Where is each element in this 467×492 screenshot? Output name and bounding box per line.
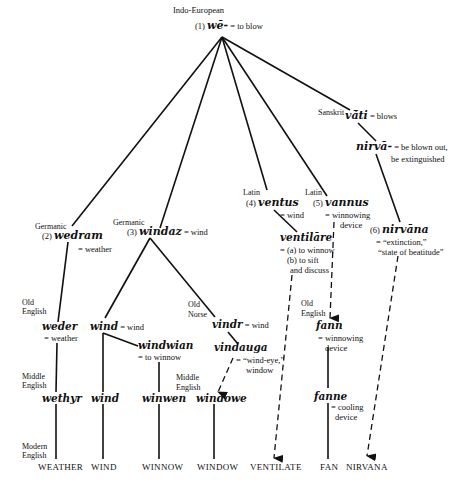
line-root-ventus — [222, 37, 267, 190]
gloss-ventus: = wind — [280, 210, 304, 220]
line-root-wedram — [72, 37, 222, 226]
word-ventilare: ventilāre — [280, 232, 332, 242]
period-old-norse-1: Old — [188, 300, 200, 310]
gloss-wedram: = weather — [78, 244, 112, 254]
gloss-fann-1: = winnowing — [318, 333, 363, 343]
line-wedram-weder — [58, 242, 68, 322]
word-fann: fann — [316, 320, 343, 330]
line-weder-wethyr — [56, 343, 57, 392]
root-word: wē- — [207, 19, 228, 32]
root-gloss: = to blow — [230, 21, 263, 31]
line-root-windaz — [160, 37, 222, 228]
modern-fan: FAN — [320, 462, 338, 472]
modern-nirvana: NIRVANA — [346, 462, 388, 472]
node-vindr: vindr = wind — [212, 319, 269, 330]
word-windaz: windaz — [139, 225, 182, 238]
num-nirvana: (6) — [370, 225, 380, 235]
period-old-english-2: English — [22, 307, 46, 317]
word-vati: vā́ti — [345, 109, 368, 122]
gloss-ventilare-1: = (a) to winnow — [280, 245, 335, 255]
word-windwian: windwian — [138, 340, 193, 350]
period-middle-english-2: English — [22, 381, 46, 391]
gloss-fann-2: device — [325, 343, 347, 353]
root-num: (1) — [195, 21, 205, 31]
gloss-ventilare-2: (b) to sift — [287, 255, 319, 265]
period-middle-english-b-1: Middle — [176, 373, 199, 383]
period-old-english-b-1: Old — [301, 299, 313, 309]
gloss-nirvana-2: “state of beatitude” — [378, 247, 444, 257]
word-vindr: vindr — [212, 318, 243, 330]
line-root-vannus — [222, 37, 327, 196]
modern-window: WINDOW — [197, 462, 238, 472]
node-wedram: (2) wedram — [42, 231, 103, 241]
period-modern-english-2: English — [22, 451, 46, 461]
gloss-fanne-2: device — [335, 412, 357, 422]
node-nirva: nirvā- = be blown out, — [356, 142, 448, 152]
modern-winnow: WINNOW — [142, 462, 183, 472]
period-old-norse-2: Norse — [188, 310, 207, 320]
gloss-nirvana-1: = “extinction,” — [376, 237, 427, 247]
gloss-vannus-1: = winnowing — [325, 210, 370, 220]
period-old-english-b-2: English — [301, 309, 325, 319]
word-wind-oe: wind — [90, 320, 118, 332]
lang-sanskrit: Sanskrit — [318, 108, 344, 118]
num-wedram: (2) — [42, 231, 52, 241]
gloss-windaz: = wind — [184, 227, 208, 237]
gloss-nirva-1: = be blown out, — [394, 142, 447, 152]
gloss-vati: = blows — [370, 111, 397, 121]
word-ventus: ventus — [258, 196, 299, 209]
line-windaz-vindr — [150, 238, 215, 317]
word-nirvana: nirvāna — [382, 223, 429, 236]
gloss-vindr: = wind — [245, 320, 269, 330]
num-windaz: (3) — [127, 227, 137, 237]
line-vindauga-windowe — [218, 358, 233, 392]
root-node: (1) wē- = to blow — [195, 21, 263, 31]
word-nirva: nirvā- — [356, 140, 392, 153]
line-nirva-nirvana — [376, 154, 400, 222]
line-wind-windwian — [103, 333, 138, 346]
node-ventus: (4) ventus — [246, 198, 299, 208]
etymology-diagram: Indo-European (1) wē- = to blow Sanskrit… — [0, 0, 467, 492]
word-wethyr: wethyr — [42, 393, 82, 403]
word-vannus: vannus — [325, 196, 369, 209]
gloss-weder: = weather — [44, 333, 78, 343]
node-wind-oe: wind = wind — [90, 321, 144, 332]
line-vati-nirva — [358, 123, 376, 141]
gloss-fanne-1: = cooling — [331, 402, 363, 412]
gloss-vindauga-2: window — [246, 365, 273, 375]
modern-weather: WEATHER — [38, 462, 83, 472]
node-windaz: (3) windaz = wind — [127, 227, 208, 237]
word-windowe: windowe — [196, 393, 247, 403]
line-root-vati — [222, 37, 350, 110]
word-weder: weder — [42, 321, 77, 331]
node-vannus: (5) vannus — [313, 198, 369, 208]
node-vati: vā́ti = blows — [345, 111, 397, 121]
gloss-ventilare-3: and discuss — [290, 265, 329, 275]
word-vindauga: vindauga — [214, 342, 268, 352]
gloss-vannus-2: device — [340, 220, 362, 230]
modern-wind: WIND — [91, 462, 117, 472]
gloss-nirva-2: be extinguished — [391, 154, 445, 164]
line-ventilare-ventilate — [274, 275, 292, 458]
modern-ventilate: VENTILATE — [250, 462, 302, 472]
num-ventus: (4) — [246, 198, 256, 208]
gloss-windwian: = to winnow — [138, 352, 181, 362]
gloss-vindauga-1: = “wind-eye,” — [236, 355, 284, 365]
word-fanne: fanne — [314, 391, 347, 401]
node-nirvana: (6) nirvāna — [370, 225, 429, 235]
num-vannus: (5) — [313, 198, 323, 208]
word-winwen: winwen — [142, 393, 186, 403]
gloss-wind-oe: = wind — [120, 322, 144, 332]
line-nirvana-modern — [367, 256, 398, 456]
lang-latin-5: Latin — [305, 188, 322, 198]
word-wedram: wedram — [54, 229, 103, 242]
word-wind-me: wind — [91, 393, 119, 403]
family-label: Indo-European — [173, 5, 224, 15]
